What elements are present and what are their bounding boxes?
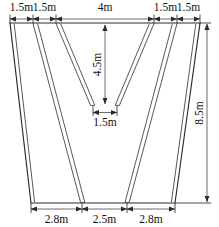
bottom-dimension-label-1: 2.8m: [45, 213, 68, 225]
v-apex-dimension-label: 1.5m: [93, 116, 116, 128]
right-long-diagonal-strip: [125, 24, 177, 203]
bottom-dimension-label-3: 2.8m: [139, 213, 162, 225]
top-dimension-label-4: 1.5m: [154, 1, 177, 13]
v-right-leg-strip: [115, 24, 154, 106]
diagram-canvas: 1.5m 1.5m 4m 1.5m 1.5m 4.5m 1.5m 8.5m: [0, 0, 219, 227]
center-depth-dimension-group: 4.5m: [91, 25, 105, 104]
left-long-diagonal-strip: [33, 24, 85, 203]
bottom-dimension-group: 2.8m 2.5m 2.8m: [31, 203, 175, 225]
v-apex-dimension-group: 1.5m: [93, 106, 117, 128]
bottom-dimension-label-2: 2.5m: [93, 213, 116, 225]
top-dimension-label-2: 1.5m: [33, 1, 56, 13]
v-left-leg-strip: [56, 24, 95, 106]
top-dimension-label-3: 4m: [98, 1, 113, 13]
left-edge-strip: [14, 24, 34, 202]
dimension-diagram: 1.5m 1.5m 4m 1.5m 1.5m 4.5m 1.5m 8.5m: [0, 0, 219, 227]
top-dimension-label-5: 1.5m: [177, 1, 200, 13]
top-dimension-label-1: 1.5m: [10, 1, 33, 13]
center-depth-label: 4.5m: [91, 53, 103, 76]
overall-height-dimension-group: 8.5m: [175, 23, 211, 203]
overall-height-label: 8.5m: [193, 101, 205, 124]
top-dimension-group: 1.5m 1.5m 4m 1.5m 1.5m: [10, 1, 200, 24]
